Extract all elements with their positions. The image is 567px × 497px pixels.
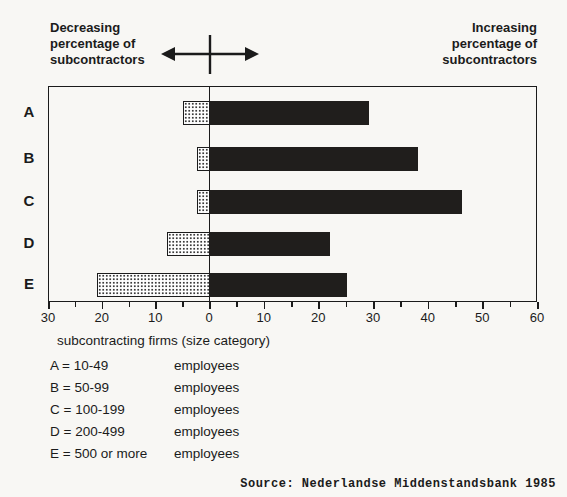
axis-tick <box>291 302 293 307</box>
axis-tick-label: 10 <box>256 310 270 325</box>
legend-unit: employees <box>174 446 239 461</box>
decreasing-axis-label: Decreasing percentage of subcontractors <box>50 20 145 68</box>
axis-tick-label: 0 <box>205 310 212 325</box>
category-label-C: C <box>18 192 40 209</box>
legend-entry-E: E = 500 or moreemployees <box>50 443 239 465</box>
bar-decrease-A <box>183 101 210 125</box>
size-category-legend: A = 10-49employeesB = 50-99employeesC = … <box>50 355 239 465</box>
legend-unit: employees <box>174 358 239 373</box>
legend-label: C = 100-199 <box>50 399 174 421</box>
bar-decrease-D <box>167 232 210 256</box>
category-label-E: E <box>18 275 40 292</box>
axis-tick <box>236 302 238 307</box>
axis-tick <box>129 302 131 307</box>
chart-caption: subcontracting firms (size category) <box>57 333 270 348</box>
axis-tick-label: 20 <box>311 310 325 325</box>
legend-entry-D: D = 200-499employees <box>50 421 239 443</box>
increasing-axis-label: Increasing percentage of subcontractors <box>442 20 537 68</box>
legend-label: E = 500 or more <box>50 443 174 465</box>
axis-tick <box>428 302 430 309</box>
category-label-D: D <box>18 234 40 251</box>
axis-tick <box>209 302 211 309</box>
legend-unit: employees <box>174 402 239 417</box>
axis-tick-label: 40 <box>420 310 434 325</box>
diverging-arrow-icon <box>160 28 260 80</box>
axis-tick <box>373 302 375 309</box>
axis-tick-label: 60 <box>530 310 544 325</box>
category-label-A: A <box>18 103 40 120</box>
legend-unit: employees <box>174 380 239 395</box>
axis-tick <box>48 302 50 309</box>
diverging-bar-chart: ABCDE <box>0 86 567 303</box>
bar-increase-C <box>210 190 462 214</box>
bar-decrease-B <box>197 147 210 171</box>
source-note: Source: Nederlandse Middenstandsbank 198… <box>240 477 556 491</box>
axis-tick <box>455 302 457 307</box>
bar-increase-D <box>210 232 330 256</box>
axis-tick-label: 10 <box>148 310 162 325</box>
legend-label: A = 10-49 <box>50 355 174 377</box>
axis-tick <box>537 302 539 309</box>
axis-tick <box>182 302 184 307</box>
axis-tick <box>400 302 402 307</box>
legend-label: D = 200-499 <box>50 421 174 443</box>
legend-entry-A: A = 10-49employees <box>50 355 239 377</box>
axis-tick-label: 30 <box>41 310 55 325</box>
bar-decrease-E <box>97 273 210 297</box>
axis-tick <box>75 302 77 307</box>
axis-tick-label: 50 <box>475 310 489 325</box>
bar-increase-A <box>210 101 369 125</box>
axis-tick <box>264 302 266 309</box>
bar-increase-E <box>210 273 347 297</box>
axis-tick <box>346 302 348 307</box>
axis-tick <box>482 302 484 309</box>
bar-increase-B <box>210 147 418 171</box>
bar-decrease-C <box>197 190 210 214</box>
legend-entry-B: B = 50-99employees <box>50 377 239 399</box>
axis-tick-label: 20 <box>94 310 108 325</box>
plot-area <box>48 86 537 302</box>
category-label-B: B <box>18 149 40 166</box>
axis-tick <box>102 302 104 309</box>
double-headed-arrow-icon <box>160 28 260 80</box>
legend-label: B = 50-99 <box>50 377 174 399</box>
axis-tick <box>318 302 320 309</box>
axis-tick <box>155 302 157 309</box>
legend-unit: employees <box>174 424 239 439</box>
x-axis: 3020100102030405060 <box>48 302 537 336</box>
axis-tick <box>510 302 512 307</box>
legend-entry-C: C = 100-199employees <box>50 399 239 421</box>
axis-tick-label: 30 <box>366 310 380 325</box>
